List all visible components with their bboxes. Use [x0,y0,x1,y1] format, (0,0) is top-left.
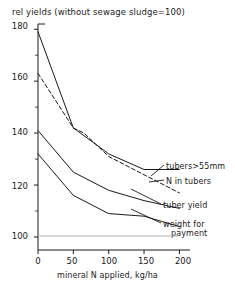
chart-figure: rel yields (without sewage sludge=100) 1… [0,0,235,292]
series-layer [38,32,179,227]
leader-line-n-in-tubers [149,180,164,182]
plot-area [0,0,235,292]
series-line-tubers-55mm [38,32,179,170]
x-axis-ticks [38,250,179,254]
leader-line-tubers55 [151,165,164,176]
leader-line-tuber-yield [131,189,161,204]
y-axis-ticks [34,29,38,237]
series-line-n-in-tubers [38,73,179,192]
